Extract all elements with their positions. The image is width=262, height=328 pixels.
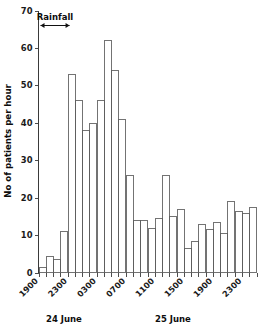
y-tick-label-50: 50 [21,80,33,90]
bar-1600 [192,242,199,273]
bar-0400 [105,41,112,273]
histogram-bars [40,41,257,273]
y-tick-label-70: 70 [21,6,33,16]
y-axis-ticks [35,12,39,274]
chart-figure: 010203040506070 190023000300070011001500… [0,0,262,328]
bar-0500 [112,71,119,273]
bar-1100 [156,219,163,273]
bar-2000 [47,257,54,273]
bar-0600 [119,120,126,273]
bar-0800 [134,221,141,273]
bar-1900 [214,223,221,273]
bar-1700 [199,225,206,273]
bar-0300 [98,101,105,273]
bar-2000 [221,234,228,273]
bar-0200 [90,124,97,273]
bar-2200 [236,212,243,273]
patients-per-hour-histogram: 010203040506070 190023000300070011001500… [0,0,262,328]
bar-0700 [127,176,134,273]
bar-1900 [40,268,47,273]
y-tick-label-40: 40 [21,118,33,128]
bar-1500 [185,249,192,273]
bar-2100 [228,202,235,273]
bar-1300 [170,217,177,273]
x-tick-label-1900-0: 1900 [17,276,40,299]
y-tick-label-20: 20 [21,193,33,203]
y-axis-tick-labels: 010203040506070 [21,6,33,278]
y-axis-title: No of patients per hour [3,84,13,198]
y-tick-label-30: 30 [21,155,33,165]
rainfall-arrow-head-right [66,23,70,28]
x-tick-label-1900-6: 1900 [191,276,214,299]
bar-2300 [243,214,250,273]
x-tick-label-0700-3: 0700 [104,276,127,299]
bar-2100 [54,260,61,273]
x-tick-label-1100-4: 1100 [133,276,156,299]
day-label-0: 24 June [46,314,82,324]
bar-0100 [83,131,90,273]
bar-2400 [250,208,257,273]
bar-1400 [178,210,185,273]
bar-0900 [141,221,148,273]
x-tick-label-0300-2: 0300 [75,276,98,299]
rainfall-arrow-head-left [41,23,45,28]
rainfall-annotation-label: Rainfall [37,12,74,22]
bar-2300 [69,75,76,273]
y-tick-label-60: 60 [21,43,33,53]
y-tick-label-10: 10 [21,230,33,240]
x-tick-label-2300-1: 2300 [46,276,69,299]
bar-2400 [76,101,83,273]
x-axis-tick-labels: 19002300030007001100150019002300 [17,276,244,299]
bar-1200 [163,176,170,273]
day-labels: 24 June25 June [46,314,191,324]
x-tick-label-2300-7: 2300 [220,276,243,299]
bar-1800 [207,230,214,273]
day-label-1: 25 June [155,314,191,324]
chart-annotations: Rainfall [37,12,74,29]
x-tick-label-1500-5: 1500 [162,276,185,299]
bar-2200 [61,232,68,273]
bar-1000 [149,229,156,273]
